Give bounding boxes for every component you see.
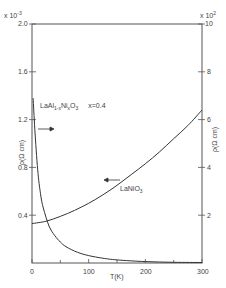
left-axis-multiplier: x 10-3 <box>4 12 22 19</box>
resistivity-chart <box>0 0 226 288</box>
right-tick-label: 8 <box>207 68 211 75</box>
label-part: 1-x <box>54 105 61 111</box>
right-tick-label: 6 <box>207 116 211 123</box>
label-part: 3 <box>76 105 79 111</box>
x-tick-label: 200 <box>140 268 152 275</box>
right-mult-exp: 2 <box>213 10 216 16</box>
right-tick-label: 10 <box>205 20 213 27</box>
right-tick-label: 2 <box>207 212 211 219</box>
left-tick-label: 2.0 <box>18 20 28 27</box>
label-part: Ni <box>61 102 68 109</box>
label-part: 3 <box>140 188 143 194</box>
right-axis-label: ρ(Ω cm) <box>211 127 218 152</box>
left-tick-label: 1.6 <box>18 68 28 75</box>
left-tick-label: 1.2 <box>18 116 28 123</box>
x-tick-label: 0 <box>30 268 34 275</box>
left-tick-label: 0.8 <box>18 164 28 171</box>
left-tick-label: 0.4 <box>18 212 28 219</box>
series-label-laalnio3: LaAl1-xNixO3 x=0.4 <box>40 102 106 109</box>
x-tick-label: 100 <box>83 268 95 275</box>
x-value-label: x=0.4 <box>88 102 105 109</box>
right-axis-multiplier: x 102 <box>200 12 216 19</box>
axis-ticks <box>29 24 205 263</box>
left-mult-exp: -3 <box>17 10 21 16</box>
right-mult-base: x 10 <box>200 12 213 19</box>
x-tick-label: 300 <box>197 268 209 275</box>
left-axis-label: ρ(Ω cm) <box>18 140 25 165</box>
right-tick-label: 4 <box>207 164 211 171</box>
series-label-lanio3: LaNiO3 <box>120 185 143 192</box>
curve-lanio3 <box>32 110 202 224</box>
arrow-right-icon <box>38 127 54 131</box>
arrow-left-icon <box>104 178 120 182</box>
label-part: LaNiO <box>120 185 140 192</box>
x-axis-label: T(K) <box>110 273 124 280</box>
left-mult-base: x 10 <box>4 12 17 19</box>
plot-frame <box>32 24 202 263</box>
label-part: LaAl <box>40 102 54 109</box>
